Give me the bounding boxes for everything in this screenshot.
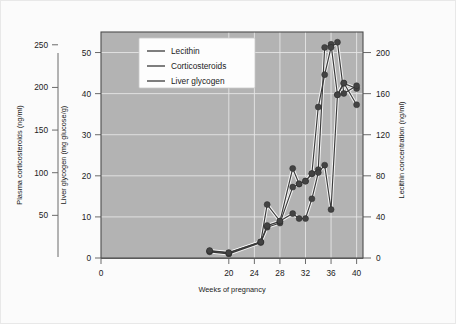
data-point: [315, 170, 321, 176]
tick-label-outer-left: 100: [34, 168, 48, 178]
data-point: [315, 104, 321, 110]
data-point: [258, 239, 264, 245]
axis-ticks-inner-left: 50403020100: [82, 48, 101, 263]
data-point: [264, 223, 270, 229]
chart-figure: 25020015010050 Plasma corticosteroids (n…: [0, 0, 456, 324]
data-point: [302, 178, 308, 184]
tick-label-inner-left: 0: [86, 253, 91, 263]
data-point: [334, 39, 340, 45]
tick-label-outer-left: 150: [34, 125, 48, 135]
legend-label-corticosteroids: Corticosteroids: [171, 61, 226, 71]
legend-label-lecithin: Lecithin: [171, 46, 200, 56]
tick-label-right: 120: [376, 130, 390, 140]
axis-plasma-corticosteroids: 25020015010050 Plasma corticosteroids (n…: [15, 40, 58, 257]
data-point: [322, 72, 328, 78]
tick-label-inner-left: 10: [82, 212, 92, 222]
data-point: [277, 218, 283, 224]
tick-label-inner-left: 50: [82, 48, 92, 58]
data-point: [341, 90, 347, 96]
tick-label-inner-left: 30: [82, 130, 92, 140]
tick-label-outer-left: 200: [34, 82, 48, 92]
tick-label-right: 160: [376, 89, 390, 99]
tick-label-x: 24: [250, 268, 260, 278]
tick-label-x: 20: [224, 268, 234, 278]
data-point: [296, 181, 302, 187]
data-point: [309, 196, 315, 202]
tick-label-x: 28: [275, 268, 285, 278]
axis-ticks-outer-left: 25020015010050: [34, 40, 58, 221]
data-point: [334, 92, 340, 98]
data-point: [322, 162, 328, 168]
chart-legend: LecithinCorticosteroidsLiver glycogen: [139, 38, 255, 88]
tick-label-right: 80: [376, 171, 386, 181]
axis-title-plasma-corticosteroids: Plasma corticosteroids (ng/ml): [15, 105, 24, 204]
tick-label-outer-left: 50: [39, 210, 49, 220]
data-point: [296, 216, 302, 222]
data-point: [354, 102, 360, 108]
legend-label-liver-glycogen: Liver glycogen: [171, 76, 225, 86]
data-point: [226, 250, 232, 256]
tick-label-x: 36: [326, 268, 336, 278]
data-point: [290, 165, 296, 171]
axis-liver-glycogen: 50403020100 Liver glycogen (mg glucose/g…: [59, 48, 101, 263]
tick-label-inner-left: 20: [82, 171, 92, 181]
data-point: [302, 216, 308, 222]
data-point: [309, 171, 315, 177]
tick-label-outer-left: 250: [34, 40, 48, 50]
axis-weeks-of-pregnancy: 0202428323640 Weeks of pregnancy: [99, 259, 363, 295]
chart-canvas: 25020015010050 Plasma corticosteroids (n…: [0, 0, 456, 324]
data-point: [290, 211, 296, 217]
data-point: [354, 83, 360, 89]
data-point: [322, 44, 328, 50]
data-point: [207, 248, 213, 254]
tick-label-x: 40: [352, 268, 362, 278]
data-point: [341, 80, 347, 86]
axis-title-liver-glycogen: Liver glycogen (mg glucose/g): [59, 106, 68, 205]
axis-title-weeks-of-pregnancy: Weeks of pregnancy: [198, 285, 266, 294]
tick-label-x: 0: [99, 268, 104, 278]
data-point: [328, 207, 334, 213]
tick-label-inner-left: 40: [82, 89, 92, 99]
tick-label-right: 40: [376, 212, 386, 222]
data-point: [264, 202, 270, 208]
data-point: [328, 44, 334, 50]
tick-label-x: 32: [301, 268, 311, 278]
axis-ticks-x: 0202428323640: [99, 259, 362, 279]
tick-label-right: 200: [376, 48, 390, 58]
axis-lecithin-concentration: 20016012080400 Lecithin concentration (n…: [363, 48, 406, 263]
axis-title-lecithin-concentration: Lecithin concentration (ng/ml): [397, 102, 406, 199]
tick-label-right: 0: [376, 253, 381, 263]
data-point: [290, 184, 296, 190]
axis-ticks-right: 20016012080400: [363, 48, 390, 263]
